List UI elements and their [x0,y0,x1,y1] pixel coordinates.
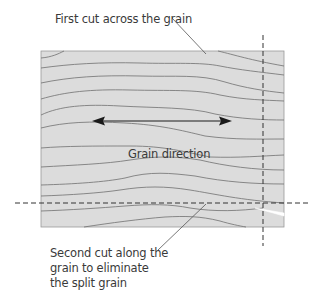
first-cut-label: First cut across the grain [55,12,192,27]
grain-direction-label: Grain direction [128,147,210,162]
second-cut-label: Second cut along the grain to eliminate … [50,246,170,291]
